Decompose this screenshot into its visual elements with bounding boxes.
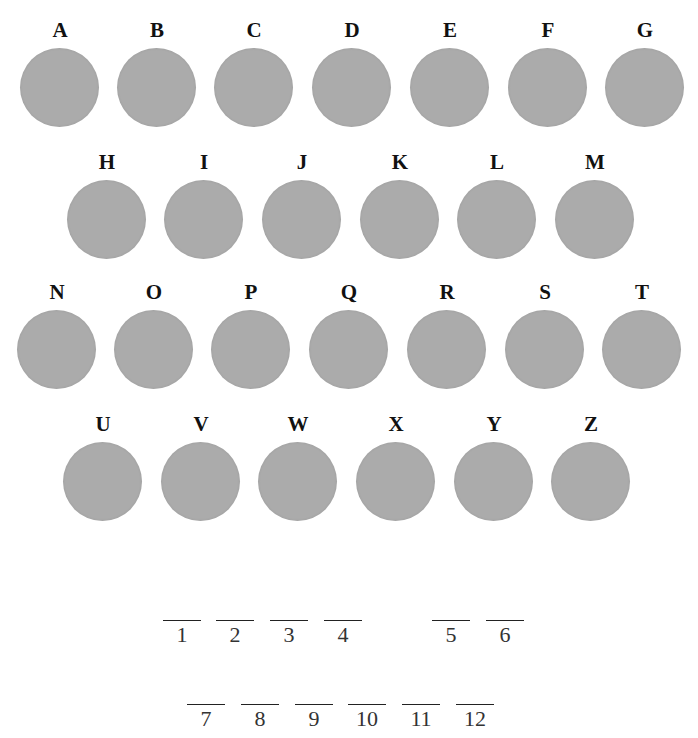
disc-label: F <box>508 18 588 43</box>
blank-line[interactable] <box>295 704 333 705</box>
blank-number: 11 <box>402 706 440 732</box>
blank-number: 8 <box>241 706 279 732</box>
gray-disc[interactable] <box>457 180 536 259</box>
gray-disc[interactable] <box>211 310 290 389</box>
gray-disc[interactable] <box>63 442 142 521</box>
disc-label: E <box>410 18 490 43</box>
disc-label: N <box>17 280 97 305</box>
gray-disc[interactable] <box>161 442 240 521</box>
gray-disc[interactable] <box>312 48 391 127</box>
gray-disc[interactable] <box>114 310 193 389</box>
blank-number: 1 <box>163 622 201 648</box>
disc-label: M <box>555 150 635 175</box>
gray-disc[interactable] <box>407 310 486 389</box>
gray-disc[interactable] <box>67 180 146 259</box>
gray-disc[interactable] <box>17 310 96 389</box>
disc-label: W <box>258 412 338 437</box>
blank-number: 12 <box>456 706 494 732</box>
blank-line[interactable] <box>324 620 362 621</box>
disc-label: Y <box>454 412 534 437</box>
gray-disc[interactable] <box>258 442 337 521</box>
blank-line[interactable] <box>163 620 201 621</box>
gray-disc[interactable] <box>505 310 584 389</box>
disc-label: Q <box>309 280 389 305</box>
gray-disc[interactable] <box>20 48 99 127</box>
blank-line[interactable] <box>402 704 440 705</box>
gray-disc[interactable] <box>164 180 243 259</box>
disc-label: P <box>211 280 291 305</box>
disc-label: J <box>262 150 342 175</box>
blank-line[interactable] <box>348 704 386 705</box>
gray-disc[interactable] <box>551 442 630 521</box>
gray-disc[interactable] <box>454 442 533 521</box>
blank-line[interactable] <box>270 620 308 621</box>
disc-label: O <box>114 280 194 305</box>
gray-disc[interactable] <box>356 442 435 521</box>
blank-number: 9 <box>295 706 333 732</box>
gray-disc[interactable] <box>214 48 293 127</box>
gray-disc[interactable] <box>555 180 634 259</box>
disc-label: U <box>63 412 143 437</box>
blank-line[interactable] <box>241 704 279 705</box>
disc-label: B <box>117 18 197 43</box>
blank-line[interactable] <box>216 620 254 621</box>
disc-label: L <box>457 150 537 175</box>
blank-number: 2 <box>216 622 254 648</box>
blank-number: 10 <box>348 706 386 732</box>
disc-label: I <box>164 150 244 175</box>
gray-disc[interactable] <box>605 48 684 127</box>
gray-disc[interactable] <box>410 48 489 127</box>
gray-disc[interactable] <box>309 310 388 389</box>
disc-label: Z <box>551 412 631 437</box>
blank-number: 5 <box>432 622 470 648</box>
blank-line[interactable] <box>486 620 524 621</box>
gray-disc[interactable] <box>117 48 196 127</box>
gray-disc[interactable] <box>602 310 681 389</box>
blank-number: 4 <box>324 622 362 648</box>
disc-label: G <box>605 18 685 43</box>
disc-label: H <box>67 150 147 175</box>
gray-disc[interactable] <box>360 180 439 259</box>
blank-line[interactable] <box>187 704 225 705</box>
blank-number: 6 <box>486 622 524 648</box>
disc-label: V <box>161 412 241 437</box>
gray-disc[interactable] <box>262 180 341 259</box>
disc-label: X <box>356 412 436 437</box>
blank-number: 3 <box>270 622 308 648</box>
blank-line[interactable] <box>456 704 494 705</box>
gray-disc[interactable] <box>508 48 587 127</box>
blank-line[interactable] <box>432 620 470 621</box>
blank-number: 7 <box>187 706 225 732</box>
disc-label: T <box>602 280 682 305</box>
disc-label: K <box>360 150 440 175</box>
disc-label: D <box>312 18 392 43</box>
disc-label: R <box>407 280 487 305</box>
disc-label: C <box>214 18 294 43</box>
disc-label: S <box>505 280 585 305</box>
disc-label: A <box>20 18 100 43</box>
